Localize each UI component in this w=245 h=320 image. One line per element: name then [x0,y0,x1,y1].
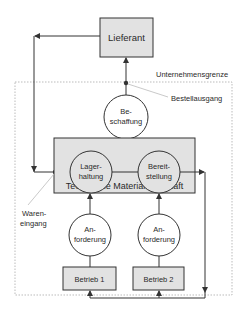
order-output-label: Bestellausgang [171,94,222,103]
storage-node: Lager- haltung [70,151,112,193]
goods-receipt-pointer [28,174,54,205]
plant-box-1: Betrieb 1 [63,267,116,290]
svg-text:stellung: stellung [146,172,172,181]
supplier-label: Lieferant [108,32,145,43]
order-output-pointer [128,84,168,97]
goods-receipt-label-2: eingang [20,219,47,228]
request-node-2: An- forderung [138,214,180,256]
svg-text:Bereit-: Bereit- [148,162,171,171]
plant-box-2: Betrieb 2 [133,267,184,290]
svg-text:Lager-: Lager- [80,162,102,171]
svg-text:An-: An- [84,225,96,234]
svg-text:An-: An- [153,225,165,234]
svg-text:Betrieb 2: Betrieb 2 [143,275,173,284]
request-node-1: An- forderung [69,214,111,256]
procurement-node: Be- schaffung [104,95,148,139]
svg-text:forderung: forderung [143,235,175,244]
svg-text:Be-: Be- [120,107,132,116]
goods-receipt-label-1: Waren- [22,209,47,218]
order-output-junction [124,81,128,85]
svg-text:Betrieb 1: Betrieb 1 [74,275,104,284]
svg-text:schaffung: schaffung [110,117,142,126]
boundary-label: Unternehmensgrenze [156,70,228,79]
svg-text:haltung: haltung [79,172,104,181]
svg-text:forderung: forderung [74,235,106,244]
supplier-box: Lieferant [100,18,153,57]
material-flow-diagram: Unternehmensgrenze Lieferant Bestellausg… [0,0,245,320]
provision-node: Bereit- stellung [138,151,180,193]
